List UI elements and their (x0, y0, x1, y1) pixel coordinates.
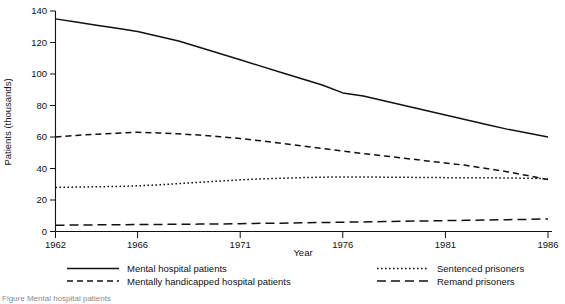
y-tick-label: 0 (42, 226, 47, 237)
legend-label: Sentenced prisoners (437, 263, 524, 274)
chart-background (0, 0, 565, 304)
legend-label: Remand prisoners (437, 276, 515, 287)
x-tick-label: 1986 (537, 239, 558, 250)
y-tick-label: 140 (31, 5, 47, 16)
x-tick-label: 1976 (332, 239, 353, 250)
y-axis-label: Patients (thousands) (2, 78, 13, 165)
x-tick-label: 1971 (230, 239, 251, 250)
x-tick-label: 1962 (45, 239, 66, 250)
y-tick-label: 120 (31, 37, 47, 48)
legend-label: Mentally handicapped hospital patients (127, 276, 291, 287)
line-chart: Patients (thousands) 020406080100120140 … (0, 0, 565, 304)
y-tick-label: 40 (36, 163, 47, 174)
y-tick-label: 100 (31, 68, 47, 79)
y-tick-label: 60 (36, 131, 47, 142)
x-tick-label: 1981 (435, 239, 456, 250)
figure-caption: Figure Mental hospital patients (2, 294, 111, 303)
x-tick-label: 1966 (127, 239, 148, 250)
figure-root: Patients (thousands) 020406080100120140 … (0, 0, 565, 304)
y-tick-label: 80 (36, 100, 47, 111)
legend-label: Mental hospital patients (127, 263, 227, 274)
y-tick-label: 20 (36, 194, 47, 205)
x-axis-label: Year (293, 247, 312, 258)
